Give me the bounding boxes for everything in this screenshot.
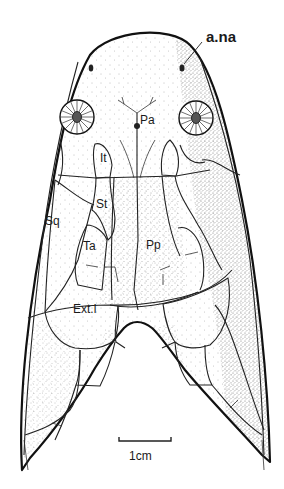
label-postparietal: Pp	[146, 238, 161, 252]
label-supratemporal: St	[96, 197, 108, 211]
left-orbit	[60, 100, 94, 134]
label-intertemporal: It	[100, 151, 107, 165]
scale-bar: 1cm	[119, 437, 171, 463]
right-orbit	[179, 101, 213, 135]
scale-bar-label: 1cm	[129, 449, 152, 463]
label-anterior-naris: a.na	[206, 28, 237, 45]
skull-illustration: a.na Pa It St Sq Ta Pp Ext.l 1cm	[0, 0, 284, 489]
skull-shading	[0, 0, 284, 489]
label-tabular: Ta	[83, 239, 96, 253]
left-naris	[89, 65, 94, 72]
label-extrascapular-lateral: Ext.l	[73, 302, 96, 316]
skull-roof-figure: a.na Pa It St Sq Ta Pp Ext.l 1cm	[0, 0, 284, 489]
right-naris	[180, 65, 185, 72]
label-squamosal: Sq	[45, 214, 60, 228]
label-parietal: Pa	[140, 113, 155, 127]
